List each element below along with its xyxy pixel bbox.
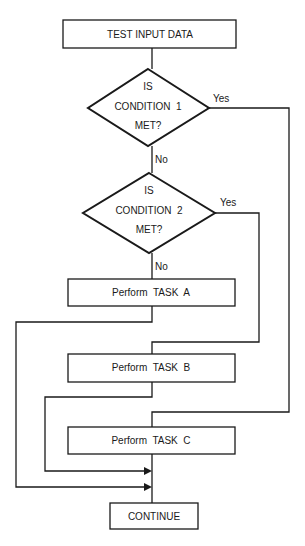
edge-label-decision2-no: No	[155, 261, 168, 272]
node-label: Perform TASK C	[111, 435, 190, 446]
decision-line-2: CONDITION 1	[114, 101, 182, 112]
node-label: CONTINUE	[128, 511, 181, 522]
edge-label-decision2-yes: Yes	[220, 197, 236, 208]
decision-condition-1[interactable]: IS CONDITION 1 MET?	[88, 69, 209, 146]
node-test-input-data[interactable]: TEST INPUT DATA	[63, 20, 236, 48]
flowchart-diagram: TEST INPUT DATA IS CONDITION 1 MET? Yes …	[0, 0, 305, 546]
node-continue[interactable]: CONTINUE	[110, 503, 198, 529]
node-label: Perform TASK B	[112, 362, 191, 373]
node-task-c[interactable]: Perform TASK C	[68, 427, 235, 454]
node-task-a[interactable]: Perform TASK A	[68, 279, 235, 306]
decision-line-2: CONDITION 2	[115, 205, 183, 216]
edge-label-decision1-no: No	[155, 154, 168, 165]
decision-line-3: MET?	[135, 120, 162, 131]
edge-label-decision1-yes: Yes	[213, 93, 229, 104]
decision-line-3: MET?	[136, 224, 163, 235]
decision-line-1: IS	[143, 81, 153, 92]
decision-condition-2[interactable]: IS CONDITION 2 MET?	[83, 173, 215, 253]
arrowhead-task-b-merge	[144, 467, 152, 475]
decision-line-1: IS	[144, 185, 154, 196]
arrowhead-task-a-merge	[144, 483, 152, 491]
node-label: TEST INPUT DATA	[107, 29, 193, 40]
node-label: Perform TASK A	[112, 287, 190, 298]
node-task-b[interactable]: Perform TASK B	[68, 354, 235, 382]
